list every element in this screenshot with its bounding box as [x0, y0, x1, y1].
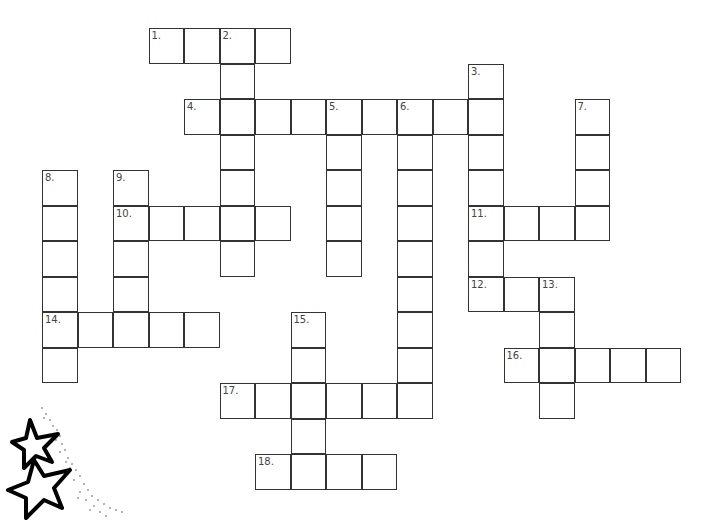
- crossword-cell[interactable]: [113, 241, 149, 277]
- crossword-cell[interactable]: 10.: [113, 206, 149, 242]
- crossword-cell[interactable]: [255, 28, 291, 64]
- crossword-cell[interactable]: [468, 170, 504, 206]
- crossword-cell[interactable]: [397, 383, 433, 419]
- crossword-cell[interactable]: 3.: [468, 64, 504, 100]
- crossword-cell[interactable]: [575, 170, 611, 206]
- crossword-cell[interactable]: [362, 383, 398, 419]
- crossword-cell[interactable]: [184, 206, 220, 242]
- crossword-cell[interactable]: [397, 170, 433, 206]
- crossword-cell[interactable]: [433, 99, 469, 135]
- clue-number: 7.: [578, 101, 588, 112]
- crossword-cell[interactable]: [468, 99, 504, 135]
- shooting-stars-icon: [0, 400, 140, 527]
- crossword-cell[interactable]: [575, 348, 611, 384]
- crossword-cell[interactable]: [397, 312, 433, 348]
- crossword-cell[interactable]: [291, 348, 327, 384]
- crossword-cell[interactable]: [397, 277, 433, 313]
- crossword-cell[interactable]: [575, 206, 611, 242]
- crossword-cell[interactable]: [397, 348, 433, 384]
- crossword-cell[interactable]: 17.: [220, 383, 256, 419]
- crossword-cell[interactable]: [326, 454, 362, 490]
- clue-number: 17.: [223, 385, 239, 396]
- crossword-cell[interactable]: [220, 135, 256, 171]
- clue-number: 9.: [116, 172, 126, 183]
- crossword-cell[interactable]: [326, 135, 362, 171]
- crossword-cell[interactable]: [78, 312, 114, 348]
- crossword-cell[interactable]: [539, 206, 575, 242]
- crossword-cell[interactable]: [397, 241, 433, 277]
- crossword-cell[interactable]: [220, 170, 256, 206]
- crossword-cell[interactable]: [539, 312, 575, 348]
- clue-number: 1.: [152, 30, 162, 41]
- crossword-cell[interactable]: [326, 170, 362, 206]
- crossword-cell[interactable]: 16.: [504, 348, 540, 384]
- crossword-cell[interactable]: [113, 277, 149, 313]
- crossword-cell[interactable]: [149, 312, 185, 348]
- crossword-cell[interactable]: [326, 383, 362, 419]
- crossword-cell[interactable]: [42, 277, 78, 313]
- crossword-cell[interactable]: 12.: [468, 277, 504, 313]
- clue-number: 12.: [471, 279, 487, 290]
- crossword-cell[interactable]: [362, 454, 398, 490]
- clue-number: 18.: [258, 456, 274, 467]
- crossword-cell[interactable]: [291, 454, 327, 490]
- crossword-cell[interactable]: [220, 64, 256, 100]
- crossword-cell[interactable]: 6.: [397, 99, 433, 135]
- crossword-cell[interactable]: 11.: [468, 206, 504, 242]
- crossword-cell[interactable]: 1.: [149, 28, 185, 64]
- crossword-cell[interactable]: [291, 419, 327, 455]
- crossword-cell[interactable]: [291, 99, 327, 135]
- crossword-cell[interactable]: 14.: [42, 312, 78, 348]
- crossword-cell[interactable]: [42, 206, 78, 242]
- crossword-cell[interactable]: [646, 348, 682, 384]
- crossword-cell[interactable]: 18.: [255, 454, 291, 490]
- crossword-cell[interactable]: [539, 383, 575, 419]
- crossword-cell[interactable]: [149, 206, 185, 242]
- crossword-cell[interactable]: [397, 135, 433, 171]
- crossword-cell[interactable]: [255, 206, 291, 242]
- crossword-cell[interactable]: [220, 241, 256, 277]
- crossword-cell[interactable]: [575, 135, 611, 171]
- clue-number: 8.: [45, 172, 55, 183]
- clue-number: 5.: [329, 101, 339, 112]
- clue-number: 14.: [45, 314, 61, 325]
- crossword-cell[interactable]: 7.: [575, 99, 611, 135]
- crossword-cell[interactable]: [255, 99, 291, 135]
- crossword-cell[interactable]: [326, 241, 362, 277]
- crossword-cell[interactable]: [397, 206, 433, 242]
- crossword-cell[interactable]: 15.: [291, 312, 327, 348]
- clue-number: 2.: [223, 30, 233, 41]
- crossword-cell[interactable]: [468, 241, 504, 277]
- crossword-cell[interactable]: 4.: [184, 99, 220, 135]
- clue-number: 3.: [471, 66, 481, 77]
- crossword-cell[interactable]: [42, 241, 78, 277]
- crossword-cell[interactable]: [184, 28, 220, 64]
- crossword-cell[interactable]: [220, 99, 256, 135]
- crossword-cell[interactable]: [504, 206, 540, 242]
- crossword-cell[interactable]: [42, 348, 78, 384]
- crossword-cell[interactable]: [184, 312, 220, 348]
- crossword-cell[interactable]: [291, 383, 327, 419]
- crossword-cell[interactable]: 5.: [326, 99, 362, 135]
- clue-number: 10.: [116, 208, 132, 219]
- crossword-cell[interactable]: [255, 383, 291, 419]
- clue-number: 6.: [400, 101, 410, 112]
- crossword-cell[interactable]: 2.: [220, 28, 256, 64]
- crossword-cell[interactable]: [362, 99, 398, 135]
- clue-number: 15.: [294, 314, 310, 325]
- crossword-cell[interactable]: [610, 348, 646, 384]
- clue-number: 4.: [187, 101, 197, 112]
- crossword-cell[interactable]: [504, 277, 540, 313]
- crossword-cell[interactable]: 9.: [113, 170, 149, 206]
- clue-number: 13.: [542, 279, 558, 290]
- clue-number: 11.: [471, 208, 487, 219]
- clue-number: 16.: [507, 350, 523, 361]
- crossword-cell[interactable]: 8.: [42, 170, 78, 206]
- crossword-cell[interactable]: 13.: [539, 277, 575, 313]
- crossword-cell[interactable]: [539, 348, 575, 384]
- crossword-cell[interactable]: [220, 206, 256, 242]
- crossword-cell[interactable]: [326, 206, 362, 242]
- crossword-cell[interactable]: [468, 135, 504, 171]
- crossword-cell[interactable]: [113, 312, 149, 348]
